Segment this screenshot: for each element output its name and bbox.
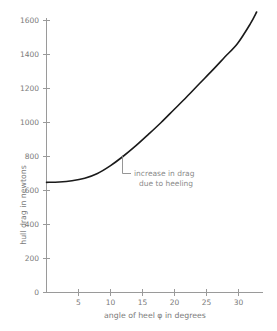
y-tick-label-1600: 1600 (20, 16, 39, 25)
y-tick-label-1000: 1000 (20, 118, 39, 127)
x-tick-label-25: 25 (202, 298, 212, 307)
x-tick-label-20: 20 (170, 298, 180, 307)
y-tick-label-200: 200 (25, 254, 40, 263)
x-tick-label-10: 10 (106, 298, 116, 307)
y-tick-label-1200: 1200 (20, 84, 39, 93)
y-tick-label-1400: 1400 (20, 50, 39, 59)
x-tick-label-15: 15 (138, 298, 148, 307)
y-tick-label-0: 0 (34, 288, 39, 297)
chart-background (0, 0, 277, 331)
hull-drag-chart: 1600 1400 1200 1000 800 600 400 200 0 5 … (0, 0, 277, 331)
y-tick-label-800: 800 (25, 152, 40, 161)
x-axis-title: angle of heel φ in degrees (104, 311, 206, 320)
x-tick-label-30: 30 (234, 298, 244, 307)
x-tick-label-5: 5 (76, 298, 81, 307)
annotation-text-line1: increase in drag (134, 169, 195, 178)
annotation-text-line2: due to heeling (139, 179, 193, 188)
y-axis-title: hull drag in newtons (19, 165, 28, 245)
